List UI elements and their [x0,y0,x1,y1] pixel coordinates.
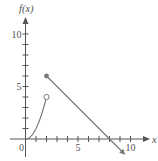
parabola-curve [26,97,47,139]
y-tick-label: 5 [17,81,22,92]
piecewise-function-chart: 0510510 f(x) x [0,0,158,161]
open-endpoint-circle [44,94,49,99]
y-axis-arrow-icon [23,17,29,24]
axis-ticks [23,34,131,142]
x-axis-arrow-icon [143,136,150,142]
x-tick-label: 0 [19,142,24,153]
filled-startpoint-dot [44,74,49,79]
y-axis-label: f(x) [19,3,34,15]
x-tick-label: 10 [126,142,136,153]
x-axis-label: x [151,134,157,145]
x-tick-label: 5 [76,142,81,153]
tick-labels: 0510510 [12,29,136,154]
y-tick-label: 10 [12,29,22,40]
decreasing-line [47,76,124,153]
